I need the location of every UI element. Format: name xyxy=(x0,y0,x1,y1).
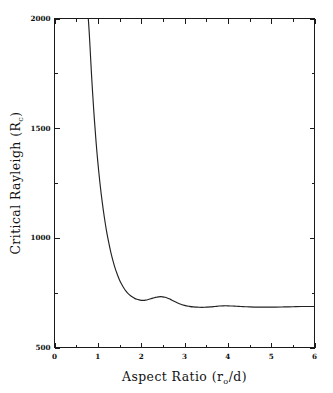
line-chart: 0123456 500100015002000 Aspect Ratio (ro… xyxy=(0,0,333,393)
x-tick-label: 4 xyxy=(225,352,230,361)
y-tick-label: 2000 xyxy=(30,14,50,23)
x-tick-label: 6 xyxy=(312,352,317,361)
figure-canvas: 0123456 500100015002000 Aspect Ratio (ro… xyxy=(0,0,333,393)
x-tick-label: 0 xyxy=(52,352,57,361)
x-tick-label: 2 xyxy=(139,352,144,361)
y-tick-label: 1500 xyxy=(30,124,50,133)
x-axis-label: Aspect Ratio (ro/d) xyxy=(121,369,247,386)
chart-background xyxy=(0,0,333,393)
x-tick-label: 5 xyxy=(269,352,274,361)
x-tick-label: 3 xyxy=(182,352,187,361)
x-tick-label: 1 xyxy=(95,352,100,361)
y-axis-label: Critical Rayleigh (Rc) xyxy=(8,111,25,254)
y-tick-label: 500 xyxy=(35,343,50,352)
y-tick-label: 1000 xyxy=(30,233,50,242)
